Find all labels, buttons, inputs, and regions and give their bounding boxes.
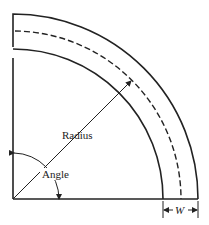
width-label: W: [175, 204, 185, 216]
angle-label: Angle: [42, 168, 69, 180]
bend-diagram: Radius Angle W: [0, 0, 209, 225]
centerline-arc: [15, 31, 181, 199]
radius-label: Radius: [62, 129, 93, 141]
